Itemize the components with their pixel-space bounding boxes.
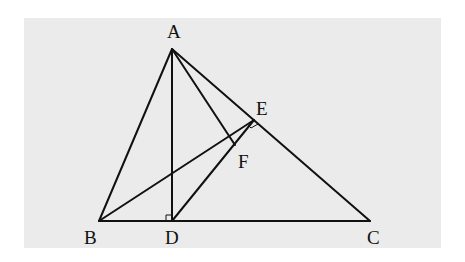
label-B: B <box>84 227 97 248</box>
label-E: E <box>256 98 268 119</box>
label-A: A <box>167 21 181 42</box>
label-F: F <box>238 151 249 172</box>
geometry-diagram: A B C D E F <box>0 0 465 262</box>
label-C: C <box>367 227 380 248</box>
label-D: D <box>165 227 179 248</box>
